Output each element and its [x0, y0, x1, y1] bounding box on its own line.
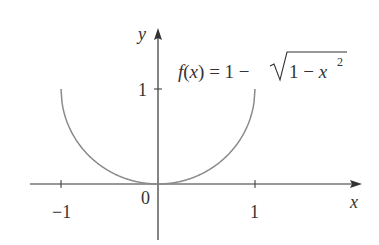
- svg-text:1 − x: 1 − x: [289, 61, 328, 82]
- function-graph: −1 1 0 1 x y f(x) = 1 − 1 − x 2: [0, 0, 379, 245]
- x-tick-label-1: 1: [250, 202, 259, 222]
- origin-label: 0: [141, 188, 150, 208]
- y-axis-label: y: [136, 24, 146, 44]
- x-tick-label-neg1: −1: [52, 202, 71, 222]
- svg-text:f(x) = 1 −: f(x) = 1 −: [178, 61, 250, 83]
- radicand-x: x: [318, 61, 328, 82]
- radicand-one: 1 −: [289, 61, 319, 82]
- x-axis-label: x: [349, 192, 358, 212]
- exponent: 2: [337, 55, 343, 69]
- function-label: f(x) = 1 − 1 − x 2: [178, 52, 347, 83]
- function-eq: = 1 −: [204, 61, 249, 82]
- y-tick-label-1: 1: [138, 80, 147, 100]
